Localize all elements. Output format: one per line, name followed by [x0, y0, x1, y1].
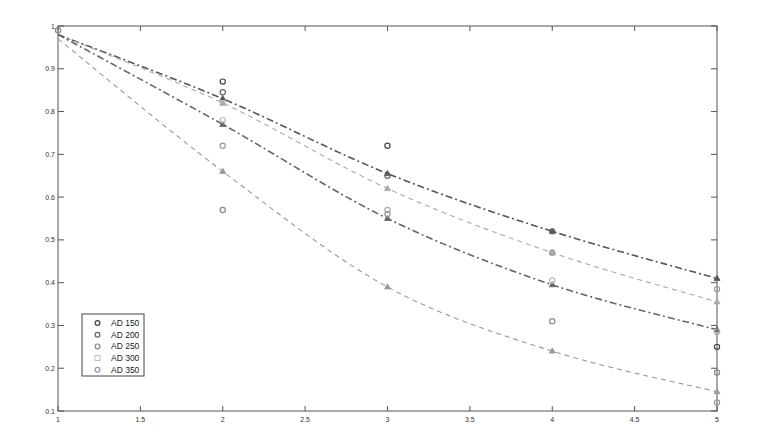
x-tick-label: 5	[715, 416, 719, 423]
data-points	[55, 28, 719, 405]
triangle-marker	[714, 299, 720, 304]
y-tick-label: 0.9	[45, 65, 55, 72]
legend-label: AD 200	[111, 330, 140, 340]
x-tick-label: 2	[221, 416, 225, 423]
legend-label: AD 350	[111, 365, 140, 375]
legend-label: AD 250	[111, 341, 140, 351]
triangle-marker	[385, 284, 391, 289]
y-tick-label: 0.2	[45, 365, 55, 372]
legend-label: AD 300	[111, 353, 140, 363]
fit-curve	[58, 35, 717, 279]
y-tick-label: 0.7	[45, 151, 55, 158]
x-tick-label: 3.5	[465, 416, 475, 423]
circle-marker	[385, 143, 390, 148]
circle-marker	[550, 319, 555, 324]
y-tick-label: 0.1	[45, 408, 55, 415]
x-tick-label: 4	[550, 416, 554, 423]
circle-marker	[220, 90, 225, 95]
y-tick-label: 0.4	[45, 279, 55, 286]
circle-marker	[220, 79, 225, 84]
legend-label: AD 150	[111, 318, 140, 328]
x-tick-label: 3	[386, 416, 390, 423]
circle-marker	[220, 143, 225, 148]
fit-curve	[58, 35, 717, 302]
y-tick-label: 0.3	[45, 322, 55, 329]
y-tick-label: 0.6	[45, 194, 55, 201]
y-tick-label: 0.8	[45, 108, 55, 115]
legend: AD 150AD 200AD 250AD 300AD 350	[82, 314, 144, 376]
chart: 11.522.533.544.55 0.10.20.30.40.50.60.70…	[0, 0, 759, 447]
x-tick-label: 4.5	[630, 416, 640, 423]
fit-curves	[58, 35, 720, 394]
x-tick-label: 2.5	[300, 416, 310, 423]
y-axis: 0.10.20.30.40.50.60.70.80.91	[45, 23, 717, 415]
y-tick-label: 1	[51, 23, 55, 30]
y-tick-label: 0.5	[45, 236, 55, 243]
circle-marker	[220, 207, 225, 212]
x-tick-label: 1	[56, 416, 60, 423]
x-axis: 11.522.533.544.55	[56, 26, 719, 423]
x-tick-label: 1.5	[136, 416, 146, 423]
triangle-marker	[220, 168, 226, 173]
